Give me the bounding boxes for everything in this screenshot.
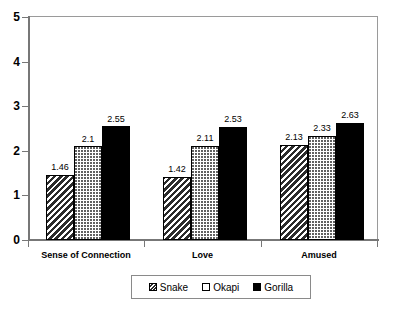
bar-snake-love[interactable] [163,177,191,240]
legend-label-okapi: Okapi [213,282,239,293]
value-label-gorilla-amused: 2.63 [336,110,364,120]
bar-chart: 5 4 3 2 1 0 1.46 2.1 2.55 1.42 2.11 2.53… [0,0,393,317]
value-label-okapi-love: 2.11 [191,133,219,143]
legend-swatch-gorilla-icon [253,283,261,291]
x-axis-tick-0 [28,241,29,247]
value-label-snake-amused: 2.13 [280,132,308,142]
value-label-gorilla-love: 2.53 [219,114,247,124]
value-label-snake-sense-of-connection: 1.46 [46,162,74,172]
bar-okapi-amused[interactable] [308,136,336,240]
bar-snake-amused[interactable] [280,145,308,240]
bar-snake-sense-of-connection[interactable] [46,175,74,240]
bar-okapi-sense-of-connection[interactable] [74,146,102,240]
bar-okapi-love[interactable] [191,146,219,240]
value-label-gorilla-sense-of-connection: 2.55 [102,114,130,124]
value-label-snake-love: 1.42 [163,164,191,174]
value-label-okapi-amused: 2.33 [308,123,336,133]
legend-label-snake: Snake [160,282,188,293]
value-label-okapi-sense-of-connection: 2.1 [74,134,102,144]
legend-swatch-snake-icon [149,283,157,291]
legend-item-gorilla[interactable]: Gorilla [253,282,293,293]
legend-item-snake[interactable]: Snake [149,282,188,293]
legend-item-okapi[interactable]: Okapi [202,282,239,293]
x-axis-tick-2 [261,241,262,247]
category-label-love: Love [144,250,261,261]
x-axis-tick-1 [144,241,145,247]
bar-gorilla-sense-of-connection[interactable] [102,126,130,240]
category-label-amused: Amused [261,250,377,261]
x-axis-tick-3 [377,241,378,247]
chart-legend: Snake Okapi Gorilla [131,275,311,299]
bar-gorilla-amused[interactable] [336,123,364,240]
legend-swatch-okapi-icon [202,283,210,291]
bars-layer [0,0,393,240]
category-label-sense-of-connection: Sense of Connection [28,250,144,261]
legend-label-gorilla: Gorilla [264,282,293,293]
bar-gorilla-love[interactable] [219,127,247,240]
